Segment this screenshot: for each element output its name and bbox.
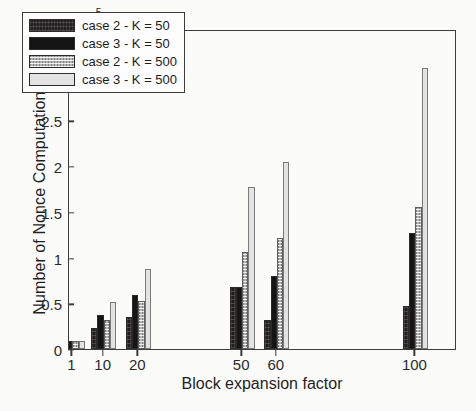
legend-label: case 3 - K = 50 — [82, 37, 170, 50]
bar-case-3-k-500-x10 — [110, 302, 116, 349]
bar-case-2-k-50-x60 — [264, 320, 270, 349]
y-tick-label: 2 — [0, 159, 62, 176]
y-tick-label: 2.5 — [0, 113, 62, 130]
bar-case-3-k-50-x60 — [271, 276, 277, 349]
legend-swatch-icon — [29, 37, 75, 50]
legend-entry[interactable]: case 3 - K = 50 — [29, 36, 177, 51]
bar-case-2-k-500-x1 — [72, 341, 78, 349]
chart-legend[interactable]: case 2 - K = 50case 3 - K = 50case 2 - K… — [22, 12, 185, 93]
x-tick-label: 10 — [94, 356, 111, 373]
legend-swatch-icon — [29, 55, 75, 68]
bar-case-2-k-50-x50 — [230, 287, 236, 349]
bar-chart-figure: ×105 Number of Nonce Computations Block … — [0, 0, 476, 411]
bar-case-2-k-500-x50 — [242, 252, 248, 349]
bar-case-3-k-50-x10 — [97, 315, 103, 349]
bar-case-2-k-500-x60 — [277, 238, 283, 349]
x-tick-label: 20 — [129, 356, 146, 373]
bar-case-2-k-500-x100 — [415, 207, 421, 349]
bar-case-3-k-500-x50 — [248, 187, 254, 349]
y-tick-label: 1.5 — [0, 204, 62, 221]
x-axis-title: Block expansion factor — [68, 375, 456, 393]
x-tick-label: 50 — [233, 356, 250, 373]
bar-case-3-k-50-x50 — [236, 287, 242, 349]
legend-swatch-icon — [29, 19, 75, 32]
legend-swatch-icon — [29, 73, 75, 86]
legend-label: case 2 - K = 50 — [82, 19, 170, 32]
x-tick-label: 1 — [67, 356, 75, 373]
legend-label: case 2 - K = 500 — [82, 55, 177, 68]
bar-case-3-k-500-x100 — [422, 68, 428, 349]
y-tick-label: 0.5 — [0, 296, 62, 313]
bar-case-2-k-50-x20 — [126, 317, 132, 349]
legend-entry[interactable]: case 3 - K = 500 — [29, 72, 177, 87]
bar-case-3-k-500-x20 — [145, 269, 151, 349]
x-tick-label: 100 — [402, 356, 427, 373]
y-tick-label: 0 — [0, 342, 62, 359]
bar-case-2-k-500-x10 — [104, 320, 110, 349]
y-tick-label: 1 — [0, 250, 62, 267]
bar-case-3-k-500-x60 — [283, 162, 289, 349]
bar-case-3-k-50-x20 — [132, 295, 138, 349]
legend-label: case 3 - K = 500 — [82, 73, 177, 86]
legend-entry[interactable]: case 2 - K = 50 — [29, 18, 177, 33]
x-tick-label: 60 — [268, 356, 285, 373]
bar-case-2-k-50-x10 — [91, 328, 97, 349]
figure-page: ×105 Number of Nonce Computations Block … — [0, 0, 476, 411]
bar-case-3-k-50-x100 — [409, 233, 415, 349]
bar-case-2-k-500-x20 — [138, 301, 144, 349]
bar-case-3-k-500-x1 — [79, 341, 85, 349]
legend-entry[interactable]: case 2 - K = 500 — [29, 54, 177, 69]
bar-case-2-k-50-x100 — [403, 306, 409, 349]
bar-case-3-k-50-x1 — [69, 341, 72, 349]
